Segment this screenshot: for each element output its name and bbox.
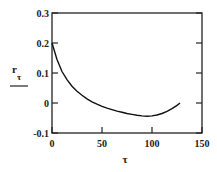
y-axis-label-subscript: τ (17, 72, 22, 82)
data-series-line (52, 43, 180, 116)
line-chart: -0.100.10.20.3 050100150 r τ τ (0, 0, 217, 172)
y-tick-label: 0 (44, 98, 49, 109)
x-tick-label: 0 (50, 138, 55, 149)
y-axis-label: r τ (10, 63, 28, 86)
x-tick-label: 150 (195, 138, 210, 149)
x-axis-label: τ (122, 153, 127, 165)
x-tick-label: 50 (97, 138, 107, 149)
plot-frame (52, 13, 202, 133)
y-tick-labels: -0.100.10.20.3 (33, 8, 49, 139)
y-tick-label: 0.2 (37, 38, 50, 49)
x-tick-label: 100 (145, 138, 160, 149)
axis-ticks (52, 13, 202, 133)
x-tick-labels: 050100150 (50, 138, 210, 149)
y-tick-label: -0.1 (33, 128, 49, 139)
y-tick-label: 0.3 (37, 8, 50, 19)
y-tick-label: 0.1 (37, 68, 50, 79)
